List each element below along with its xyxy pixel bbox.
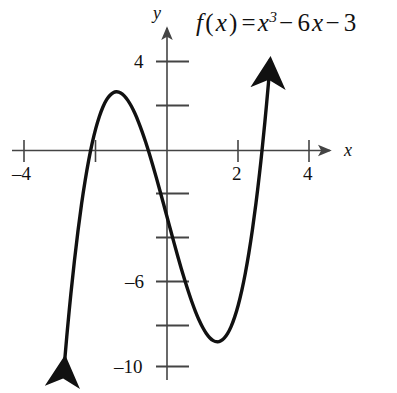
y-tick-label-neg10: –10 [114, 357, 143, 376]
cubic-function-plot [0, 0, 397, 393]
x-tick-label-neg4: –4 [12, 164, 31, 183]
y-tick-label-4: 4 [134, 52, 144, 71]
formula-constant: 3 [342, 9, 359, 36]
formula-close-paren: ) [227, 9, 240, 36]
x-axis [12, 140, 330, 162]
formula-base: x [258, 9, 269, 36]
x-axis-label: x [344, 141, 352, 159]
formula-exponent: 3 [269, 8, 277, 25]
formula-var-2: x [312, 9, 323, 36]
formula-equals: = [240, 9, 258, 36]
graph-figure: f(x)=x3−6x−3 y x –4 2 4 4 –6 –10 [0, 0, 397, 393]
formula-coefficient: 6 [295, 9, 312, 36]
y-axis [156, 28, 189, 380]
formula-minus-1: − [277, 9, 295, 36]
formula-minus-2: − [323, 9, 341, 36]
x-tick-label-4: 4 [303, 164, 313, 183]
y-tick-label-neg6: –6 [125, 272, 144, 291]
function-formula: f(x)=x3−6x−3 [196, 8, 358, 37]
y-axis-label: y [153, 4, 161, 22]
x-tick-label-2: 2 [232, 164, 242, 183]
formula-variable: x [216, 9, 227, 36]
formula-open-paren: ( [203, 9, 216, 36]
